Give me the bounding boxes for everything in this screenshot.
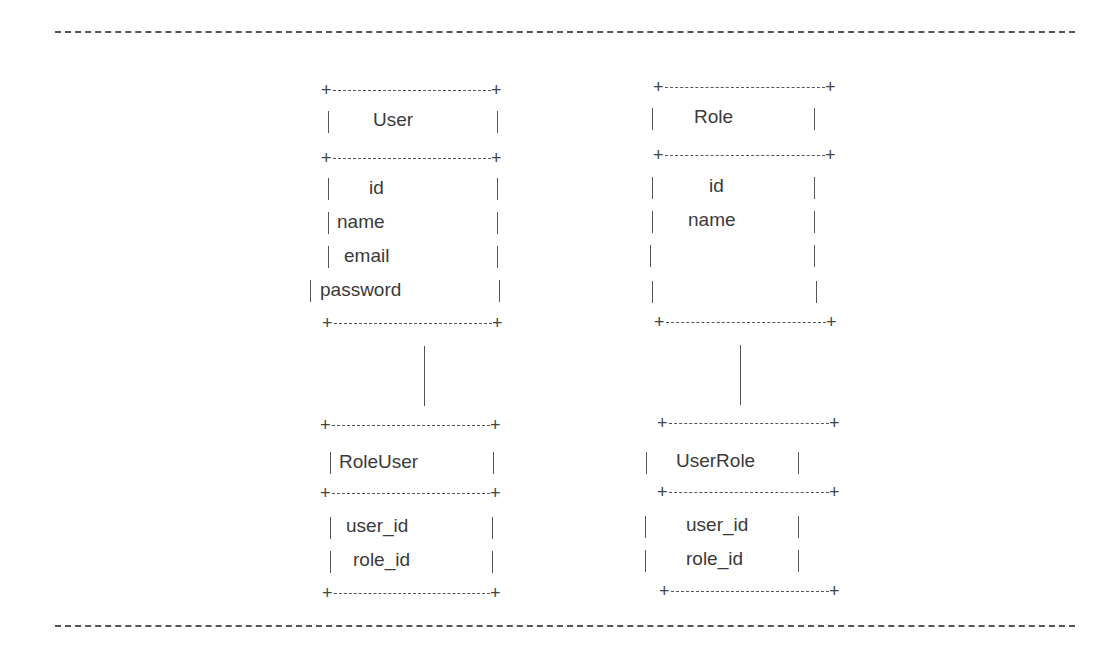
border-bar <box>814 245 815 267</box>
corner-plus: + <box>659 582 670 600</box>
border-line <box>334 593 490 594</box>
corner-plus: + <box>657 483 668 501</box>
border-bar <box>497 212 498 234</box>
corner-plus: + <box>320 484 331 502</box>
border-bar <box>330 517 331 539</box>
field: email <box>344 245 389 267</box>
field: id <box>709 175 724 197</box>
border-bar <box>798 550 799 572</box>
top-separator-line <box>55 31 1075 33</box>
border-line <box>333 158 491 159</box>
corner-plus: + <box>829 414 840 432</box>
field: role_id <box>686 548 743 570</box>
field: name <box>688 209 736 231</box>
border-bar <box>652 281 653 303</box>
border-bar <box>645 516 646 538</box>
border-line <box>334 323 492 324</box>
border-bar <box>650 245 651 267</box>
field: user_id <box>686 514 748 536</box>
corner-plus: + <box>653 78 664 96</box>
corner-plus: + <box>825 146 836 164</box>
corner-plus: + <box>320 416 331 434</box>
corner-plus: + <box>490 584 501 602</box>
corner-plus: + <box>491 81 502 99</box>
field: id <box>369 177 384 199</box>
border-bar <box>652 177 653 199</box>
border-line <box>669 423 829 424</box>
corner-plus: + <box>490 484 501 502</box>
corner-plus: + <box>825 78 836 96</box>
corner-plus: + <box>322 314 333 332</box>
corner-plus: + <box>826 313 837 331</box>
bottom-separator-line <box>55 625 1075 627</box>
border-bar <box>310 280 311 302</box>
corner-plus: + <box>321 149 332 167</box>
border-bar <box>330 452 331 474</box>
border-bar <box>492 517 493 539</box>
corner-plus: + <box>490 416 501 434</box>
corner-plus: + <box>492 314 503 332</box>
border-line <box>666 322 826 323</box>
border-bar <box>652 108 653 130</box>
border-bar <box>814 177 815 199</box>
border-line <box>665 87 825 88</box>
border-bar <box>652 211 653 233</box>
border-bar <box>814 211 815 233</box>
corner-plus: + <box>321 81 332 99</box>
border-bar <box>814 108 815 130</box>
border-bar <box>798 516 799 538</box>
border-bar <box>328 246 329 268</box>
border-line <box>332 425 490 426</box>
border-bar <box>330 551 331 573</box>
border-bar <box>816 281 817 303</box>
connector-role-userrole <box>740 345 741 405</box>
entity-title: Role <box>694 106 733 128</box>
corner-plus: + <box>491 149 502 167</box>
border-bar <box>328 212 329 234</box>
border-bar <box>497 246 498 268</box>
corner-plus: + <box>657 414 668 432</box>
field: password <box>320 279 401 301</box>
border-bar <box>497 111 498 133</box>
border-line <box>332 493 490 494</box>
border-bar <box>328 111 329 133</box>
border-line <box>333 90 491 91</box>
field: user_id <box>346 515 408 537</box>
border-line <box>669 492 829 493</box>
field: role_id <box>353 549 410 571</box>
border-bar <box>646 452 647 474</box>
corner-plus: + <box>654 313 665 331</box>
entity-title: RoleUser <box>339 451 418 473</box>
corner-plus: + <box>322 584 333 602</box>
field: name <box>337 211 385 233</box>
border-line <box>671 591 829 592</box>
border-bar <box>499 280 500 302</box>
entity-title: User <box>373 109 413 131</box>
entity-title: UserRole <box>676 450 755 472</box>
border-line <box>665 155 825 156</box>
corner-plus: + <box>829 582 840 600</box>
border-bar <box>645 550 646 572</box>
border-bar <box>492 551 493 573</box>
border-bar <box>493 452 494 474</box>
corner-plus: + <box>829 483 840 501</box>
border-bar <box>328 178 329 200</box>
border-bar <box>497 178 498 200</box>
corner-plus: + <box>653 146 664 164</box>
border-bar <box>798 452 799 474</box>
connector-user-roleuser <box>424 346 425 406</box>
